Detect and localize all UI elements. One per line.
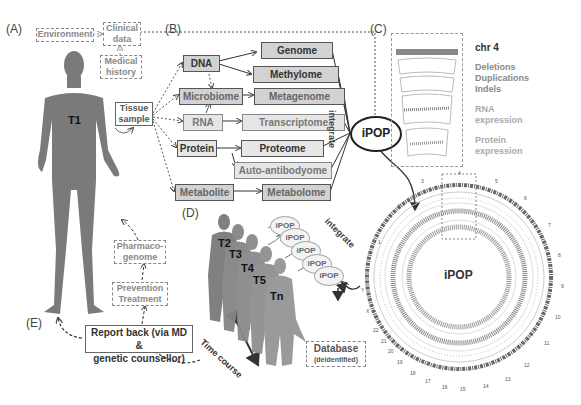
prevention-line: Prevention bbox=[113, 283, 167, 294]
database-title: Database bbox=[307, 342, 365, 355]
report-back-line2: genetic counsellor) bbox=[86, 352, 192, 365]
t4-label: T4 bbox=[241, 262, 254, 274]
treatment-line: Treatment bbox=[113, 294, 167, 305]
pharmacogenome-line2: genome bbox=[115, 252, 165, 263]
pharmacogenome-box: Pharmaco- genome bbox=[114, 240, 166, 264]
ipop-bubble-5: iPOP bbox=[314, 266, 344, 286]
prevention-treatment-box: Prevention Treatment bbox=[112, 282, 168, 306]
pharmacogenome-line1: Pharmaco- bbox=[115, 241, 165, 252]
database-subtitle: (deidentified) bbox=[307, 355, 365, 364]
t3-label: T3 bbox=[229, 248, 242, 260]
database-box: Database (deidentified) bbox=[306, 341, 366, 367]
tn-label: Tn bbox=[270, 290, 283, 302]
report-back-box: Report back (via MD & genetic counsellor… bbox=[85, 325, 193, 353]
t5-label: T5 bbox=[253, 274, 266, 286]
report-back-line1: Report back (via MD & bbox=[86, 326, 192, 352]
